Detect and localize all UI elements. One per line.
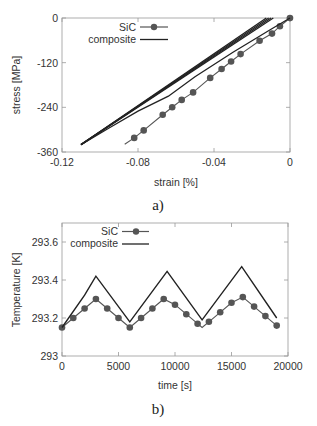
y-tick-label: -360 <box>37 146 58 158</box>
data-point-marker <box>140 127 147 134</box>
series-line-SiC <box>125 18 290 144</box>
legend-label-sic-a: SiC <box>119 21 136 33</box>
y-tick-label: 293 <box>40 350 58 362</box>
data-point-marker <box>237 51 244 58</box>
data-point-marker <box>228 58 235 65</box>
data-point-marker <box>218 66 225 73</box>
legend-label-sic-b: SiC <box>101 225 118 237</box>
data-point-marker <box>228 300 235 307</box>
data-point-marker <box>149 305 156 312</box>
data-point-marker <box>183 311 190 318</box>
data-point-marker <box>138 315 145 322</box>
plot-area-b <box>59 267 280 331</box>
data-point-marker <box>159 112 166 119</box>
data-point-marker <box>115 315 122 322</box>
x-tick-label: 10000 <box>160 360 189 372</box>
caption-b: b) <box>152 401 165 418</box>
legend-marker-icon-a <box>151 24 157 30</box>
y-axis-label-a: stress [MPa] <box>10 56 22 114</box>
x-tick-label: -0.04 <box>202 156 226 168</box>
x-tick-label: 0 <box>59 360 65 372</box>
y-tick-label: -120 <box>37 57 58 69</box>
data-point-marker <box>127 324 134 331</box>
x-tick-label: 15000 <box>217 360 246 372</box>
data-point-marker <box>131 135 138 142</box>
y-tick-label: 293.6 <box>32 236 58 248</box>
data-point-marker <box>206 319 213 326</box>
figure: -0.12-0.08-0.0400-120-240-360 strain [%]… <box>0 0 317 426</box>
data-point-marker <box>172 301 179 308</box>
y-tick-label: 293.4 <box>32 274 58 286</box>
y-tick-label: -240 <box>37 101 58 113</box>
data-point-marker <box>217 309 224 316</box>
x-axis-label-a: strain [%] <box>154 176 198 188</box>
data-point-marker <box>93 296 100 303</box>
x-tick-label: 20000 <box>273 360 302 372</box>
data-point-marker <box>160 296 167 303</box>
y-tick-label: 0 <box>52 12 58 24</box>
x-tick-label: 5000 <box>107 360 131 372</box>
data-point-marker <box>256 37 263 44</box>
x-tick-label: -0.08 <box>126 156 150 168</box>
chart-b: 05000100001500020000293293.2293.4293.6 t… <box>10 223 303 418</box>
legend-label-composite-b: composite <box>70 237 118 249</box>
x-axis-label-b: time [s] <box>158 379 192 391</box>
y-axis-label-b: Temperature [K] <box>10 253 22 328</box>
data-point-marker <box>81 305 88 312</box>
legend-a: SiC composite <box>88 21 168 45</box>
data-point-marker <box>240 294 247 301</box>
data-point-marker <box>251 303 258 310</box>
legend-label-composite-a: composite <box>88 33 136 45</box>
data-point-marker <box>194 320 201 327</box>
data-point-marker <box>269 30 276 37</box>
data-point-marker <box>104 305 111 312</box>
x-tick-label: 0 <box>287 156 293 168</box>
y-tick-label: 293.2 <box>32 312 58 324</box>
data-point-marker <box>273 322 280 329</box>
legend-b: SiC composite <box>70 225 149 249</box>
legend-marker-icon-b <box>133 228 139 234</box>
data-point-marker <box>169 104 176 111</box>
data-point-marker <box>178 97 185 104</box>
data-point-marker <box>262 313 269 320</box>
caption-a: a) <box>152 197 164 214</box>
chart-a: -0.12-0.08-0.0400-120-240-360 strain [%]… <box>10 12 293 214</box>
data-point-marker <box>190 89 197 96</box>
data-point-marker <box>207 75 214 82</box>
